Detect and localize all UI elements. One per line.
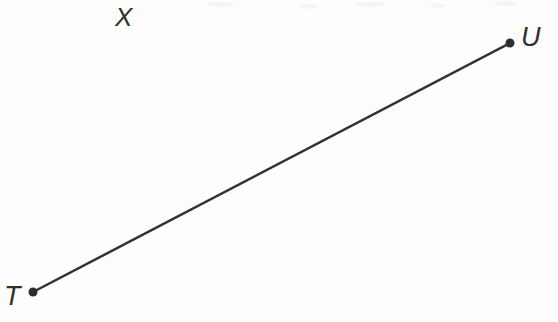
line-segment-graphic [0,0,558,322]
endpoint-label-t: T [4,283,21,310]
geometry-figure-canvas: T U X [0,0,558,322]
endpoint-label-u: U [521,24,541,51]
endpoint-dot-t [29,288,38,297]
endpoint-dot-u [506,39,515,48]
line-name-label-x: X [115,4,133,30]
segment-tu-line [33,43,510,292]
